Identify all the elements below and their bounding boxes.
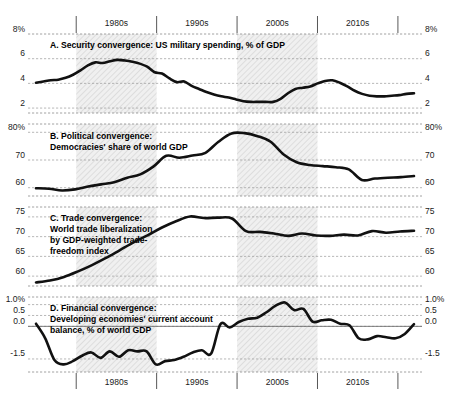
panel-title-line: freedom index: [50, 246, 109, 256]
decade-label-top: 2010s: [346, 18, 369, 28]
panel-title-line: World trade liberalization: [50, 224, 153, 234]
y-tick-label-left: 70: [16, 226, 26, 236]
y-tick-label-right: 80%: [425, 122, 442, 132]
decade-label-bottom: 2010s: [346, 377, 369, 387]
y-tick-label-right: 70: [425, 226, 435, 236]
panel-title-line: Developing economies' current account: [50, 314, 213, 324]
panel-title-line: B. Political convergence:: [50, 131, 152, 141]
y-tick-label-right: 0.5: [425, 305, 437, 315]
y-tick-label-right: 60: [425, 177, 435, 187]
decade-label-bottom: 2000s: [266, 377, 289, 387]
y-tick-label-left: 65: [16, 246, 26, 256]
y-tick-label-right: 0.0: [425, 316, 437, 326]
y-tick-label-left: -1.5: [10, 348, 25, 358]
y-tick-label-left: 1.0%: [6, 294, 26, 304]
y-tick-label-right: 1.0%: [425, 294, 445, 304]
y-tick-label-right: 65: [425, 246, 435, 256]
decade-label-top: 2000s: [266, 18, 289, 28]
decade-label-top: 1980s: [105, 18, 128, 28]
y-tick-label-right: -1.5: [425, 348, 440, 358]
y-tick-label-left: 6: [20, 48, 25, 58]
decade-band: [237, 207, 317, 286]
decade-band: [237, 297, 317, 372]
decade-label-bottom: 1990s: [185, 377, 208, 387]
panel-B: 80%80%70706060B. Political convergence:D…: [8, 122, 442, 196]
y-tick-label-right: 6: [425, 48, 430, 58]
convergence-charts-svg: 8%8%664422A. Security convergence: US mi…: [0, 0, 451, 403]
y-tick-label-left: 2: [20, 98, 25, 108]
convergence-figure-panel: 8%8%664422A. Security convergence: US mi…: [0, 0, 451, 403]
y-tick-label-right: 2: [425, 98, 430, 108]
bottom-decade-axis: 1980s1990s2000s2010s: [76, 373, 398, 389]
panel-A: 8%8%664422A. Security convergence: US mi…: [13, 24, 438, 114]
panel-C: 7575707065656060C. Trade convergence:Wor…: [16, 206, 435, 286]
y-tick-label-left: 60: [16, 266, 26, 276]
y-tick-label-right: 60: [425, 266, 435, 276]
y-tick-label-left: 0.5: [13, 305, 25, 315]
panel-title-line: D. Financial convergence:: [50, 303, 157, 313]
panel-title-line: Democracies' share of world GDP: [50, 142, 188, 152]
y-tick-label-left: 0.0: [13, 316, 25, 326]
y-tick-label-left: 60: [16, 177, 26, 187]
panel-title-line: balance, % of world GDP: [50, 325, 152, 335]
y-tick-label-right: 8%: [425, 24, 438, 34]
panel-D: 1.0%1.0%0.50.50.00.0-1.5-1.5D. Financial…: [6, 294, 445, 372]
y-tick-label-left: 75: [16, 206, 26, 216]
panel-title-line: A. Security convergence: US military spe…: [50, 40, 285, 50]
y-tick-label-left: 8%: [13, 24, 26, 34]
panel-title-line: C. Trade convergence:: [50, 213, 142, 223]
y-tick-label-right: 70: [425, 150, 435, 160]
y-tick-label-left: 70: [16, 150, 26, 160]
y-tick-label-left: 80%: [8, 122, 25, 132]
y-tick-label-right: 4: [425, 73, 430, 83]
top-decade-axis: 1980s1990s2000s2010s: [76, 16, 398, 33]
y-tick-label-right: 75: [425, 206, 435, 216]
decade-label-top: 1990s: [185, 18, 208, 28]
decade-label-bottom: 1980s: [105, 377, 128, 387]
y-tick-label-left: 4: [20, 73, 25, 83]
